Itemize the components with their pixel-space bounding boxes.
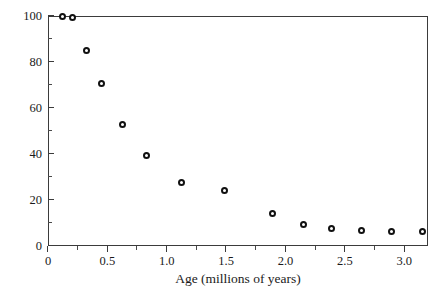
y-axis-tick-label: 40 (2, 148, 42, 161)
x-axis-minor-tick (315, 246, 316, 250)
y-axis-minor-tick (48, 222, 52, 223)
x-axis-tick-label: 3.0 (379, 255, 429, 268)
y-axis-tick-label: 0 (2, 240, 42, 253)
x-axis-tick-label: 2.5 (320, 255, 370, 268)
x-axis-minor-tick (77, 246, 78, 250)
x-axis-tick-label: 2.0 (261, 255, 311, 268)
x-axis-tick-label: 0 (23, 255, 73, 268)
y-axis-minor-tick (48, 176, 52, 177)
y-axis-tick-label: 20 (2, 194, 42, 207)
x-axis-minor-tick (136, 246, 137, 250)
x-axis-tick-label: 1.5 (201, 255, 251, 268)
y-axis-minor-tick (48, 130, 52, 131)
y-axis-tick-label: 100 (2, 10, 42, 23)
x-axis-minor-tick (374, 246, 375, 250)
y-axis-minor-tick (48, 84, 52, 85)
y-axis-tick (48, 15, 54, 16)
x-axis-tick (344, 246, 345, 252)
x-axis-minor-tick (255, 246, 256, 250)
x-axis-tick (47, 246, 48, 252)
y-axis-tick (48, 199, 54, 200)
x-axis-tick-label: 1.0 (142, 255, 192, 268)
x-axis-tick (285, 246, 286, 252)
y-axis-tick (48, 61, 54, 62)
y-axis-tick (48, 245, 54, 246)
x-axis-tick (404, 246, 405, 252)
chart-figure: 020406080100 00.51.01.52.02.53.0 Age (mi… (0, 0, 438, 295)
x-axis-minor-tick (196, 246, 197, 250)
plot-frame (48, 16, 428, 246)
x-axis-title: Age (millions of years) (48, 272, 428, 286)
x-axis-tick (107, 246, 108, 252)
y-axis-minor-tick (48, 38, 52, 39)
y-axis-tick-label: 60 (2, 102, 42, 115)
x-axis-tick (225, 246, 226, 252)
y-axis-tick (48, 107, 54, 108)
y-axis-tick-label: 80 (2, 56, 42, 69)
x-axis-tick (166, 246, 167, 252)
x-axis-tick-label: 0.5 (82, 255, 132, 268)
y-axis-tick (48, 153, 54, 154)
